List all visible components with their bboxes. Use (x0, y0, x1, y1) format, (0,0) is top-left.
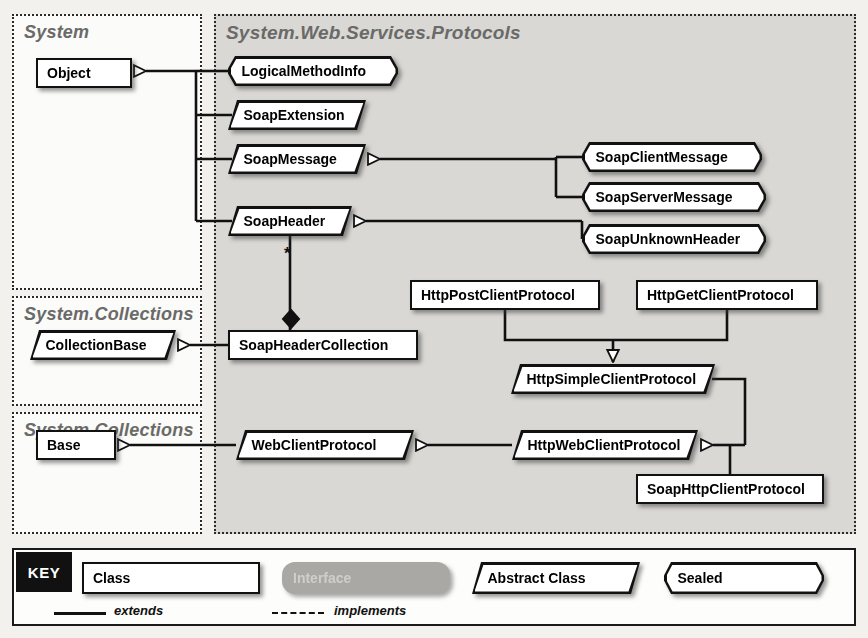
key-sample-interface-sample[interactable]: Interface (282, 562, 450, 594)
class-node-web-client-protocol[interactable]: WebClientProtocol (236, 430, 414, 460)
package-label-system-collections-1: System.Collections (24, 304, 194, 325)
node-label: HttpPostClientProtocol (412, 287, 584, 303)
key-sample-abstract-sample[interactable]: Abstract Class (472, 562, 640, 594)
class-node-soap-http-client-protocol[interactable]: SoapHttpClientProtocol (636, 474, 824, 504)
class-node-base[interactable]: Base (36, 430, 116, 460)
class-diagram-canvas: System System.Collections System.Collect… (0, 0, 868, 638)
class-node-http-web-client-protocol[interactable]: HttpWebClientProtocol (512, 430, 698, 460)
node-label: SoapHeaderCollection (230, 337, 397, 353)
class-node-soap-server-message[interactable]: SoapServerMessage (582, 182, 766, 212)
class-node-soap-message[interactable]: SoapMessage (228, 144, 366, 174)
extends-relation-line (54, 612, 106, 615)
class-node-logical-method-info[interactable]: LogicalMethodInfo (228, 56, 398, 86)
key-legend: KEY ClassInterfaceAbstract ClassSealed e… (12, 548, 856, 626)
package-label-protocols: System.Web.Services.Protocols (226, 22, 521, 44)
class-node-collection-base[interactable]: CollectionBase (30, 330, 176, 360)
class-node-soap-client-message[interactable]: SoapClientMessage (582, 142, 762, 172)
node-label: SoapHttpClientProtocol (638, 481, 814, 497)
class-node-http-simple-client-protocol[interactable]: HttpSimpleClientProtocol (511, 364, 715, 394)
composition-diamond (280, 308, 302, 330)
soap-header-multiplicity: * (284, 244, 291, 264)
node-label: HttpGetClientProtocol (638, 287, 803, 303)
class-node-soap-unknown-header[interactable]: SoapUnknownHeader (582, 224, 766, 254)
key-sample-sealed-sample[interactable]: Sealed (664, 562, 824, 594)
node-label: Class (84, 570, 139, 586)
class-node-soap-header[interactable]: SoapHeader (228, 206, 352, 236)
class-node-http-get-client-protocol[interactable]: HttpGetClientProtocol (636, 280, 818, 310)
implements-relation-line (272, 612, 324, 614)
class-node-http-post-client-protocol[interactable]: HttpPostClientProtocol (410, 280, 600, 310)
package-system (12, 14, 202, 290)
node-label: Object (38, 65, 100, 81)
class-node-soap-extension[interactable]: SoapExtension (228, 100, 366, 130)
node-label: Base (38, 437, 89, 453)
implements-relation-label: implements (334, 603, 406, 618)
package-label-system: System (24, 22, 89, 43)
extends-relation-label: extends (114, 603, 163, 618)
key-sample-class-sample[interactable]: Class (82, 562, 260, 594)
class-node-soap-header-collection[interactable]: SoapHeaderCollection (228, 330, 418, 360)
class-node-object[interactable]: Object (36, 58, 132, 88)
key-badge: KEY (16, 552, 72, 592)
